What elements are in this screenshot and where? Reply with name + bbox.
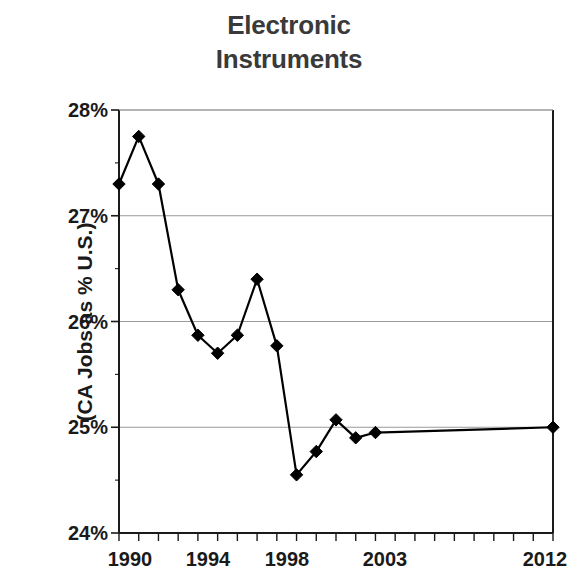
data-point-marker (152, 178, 164, 190)
data-point-marker (369, 426, 381, 438)
data-point-marker (133, 130, 145, 142)
data-point-marker (271, 340, 283, 352)
y-axis-ticks (111, 110, 119, 533)
plot-area (0, 0, 578, 588)
data-point-marker (172, 284, 184, 296)
data-point-marker (547, 421, 559, 433)
chart-container: Electronic Instruments (CA Jobs as % U.S… (0, 0, 578, 588)
data-point-marker (113, 178, 125, 190)
x-axis-ticks (119, 533, 553, 541)
data-series (113, 130, 559, 481)
gridlines (119, 110, 553, 427)
data-point-marker (251, 273, 263, 285)
